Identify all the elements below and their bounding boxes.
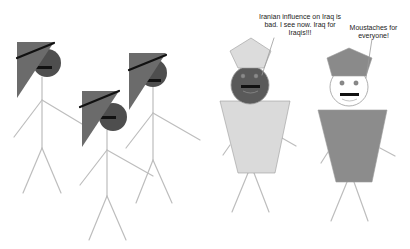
robe (220, 101, 290, 173)
leg (107, 196, 126, 240)
stick-figure-3 (126, 53, 200, 203)
leg (89, 196, 107, 240)
mouth (241, 85, 260, 88)
eye (241, 74, 245, 78)
stick-figure-1 (14, 42, 82, 193)
caption-line: Iraqis!!! (255, 29, 345, 37)
arm (223, 145, 230, 155)
mouth (100, 116, 116, 119)
caption-line: Moustaches for (346, 24, 401, 32)
stick-figure-2 (80, 91, 153, 240)
arm (380, 148, 395, 156)
eye (354, 81, 358, 85)
leg (42, 148, 61, 193)
robe (318, 110, 387, 182)
eye (340, 81, 344, 85)
caption-line: Iranian influence on Iraq is (255, 13, 345, 21)
caption-line: everyone! (346, 32, 401, 40)
pentagon-hat (327, 48, 372, 76)
robed-figure-right (318, 39, 395, 221)
arm (126, 113, 153, 148)
mouth (340, 93, 359, 96)
arm (282, 138, 296, 146)
arm (321, 152, 328, 163)
leg (232, 173, 248, 212)
leg (331, 182, 347, 221)
leg (354, 182, 368, 221)
eye (254, 74, 258, 78)
speech-caption-moustaches: Moustaches for everyone! (346, 24, 401, 40)
speech-caption-iraq: Iranian influence on Iraq is bad. I see … (255, 13, 345, 37)
robed-figure-left (220, 38, 296, 212)
pentagon-hat (230, 38, 271, 68)
arm (153, 113, 200, 140)
leg (23, 148, 42, 193)
caption-line: bad. I see now. Iraq for (255, 21, 345, 29)
arm (42, 100, 82, 124)
leg (153, 160, 172, 203)
leg (136, 160, 153, 203)
leg (254, 173, 269, 212)
arm (107, 150, 153, 176)
arm (80, 150, 107, 185)
arm (14, 100, 42, 137)
mouth (36, 66, 52, 69)
